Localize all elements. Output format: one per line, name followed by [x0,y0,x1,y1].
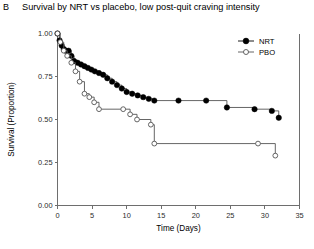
data-point-pbo [77,79,82,84]
y-tick-label: 1.00 [38,29,52,38]
y-tick-label: 0.75 [38,72,52,81]
data-point-nrt [124,89,129,94]
data-point-pbo [58,40,63,45]
data-point-pbo [273,153,278,158]
survival-chart-figure: B Survival by NRT vs placebo, low post-q… [0,0,314,249]
x-tick-label: 25 [226,211,234,220]
data-point-pbo [135,117,140,122]
data-point-pbo [256,141,261,146]
data-point-nrt [109,79,114,84]
x-axis-title: Time (Days) [156,224,201,233]
legend-label-pbo: PBO [259,48,275,57]
data-point-pbo [82,91,87,96]
data-point-nrt [135,93,140,98]
y-axis-title: Survival (Proportion) [7,82,16,157]
data-point-pbo [55,31,60,36]
data-point-nrt [276,115,281,120]
axes-group: 0.000.250.500.751.0005101520253035 [38,29,304,219]
x-tick-label: 0 [55,211,59,220]
data-point-nrt [176,98,181,103]
x-tick-label: 5 [90,211,94,220]
data-point-nrt [152,98,157,103]
data-point-nrt [269,108,274,113]
y-tick-label: 0.25 [38,158,52,167]
data-point-pbo [87,95,92,100]
data-point-pbo [61,48,66,53]
data-point-pbo [65,53,70,58]
data-point-pbo [148,122,153,127]
data-point-pbo [92,100,97,105]
x-tick-label: 15 [157,211,165,220]
legend-marker-pbo [244,50,249,55]
x-tick-label: 10 [123,211,131,220]
plot-canvas: 0.000.250.500.751.0005101520253035 NRTPB… [0,0,314,249]
y-tick-label: 0.50 [38,115,52,124]
data-point-nrt [146,96,151,101]
data-point-nrt [141,94,146,99]
series-step-line-nrt [58,34,279,118]
data-point-pbo [69,60,74,65]
data-point-nrt [119,86,124,91]
data-point-pbo [73,69,78,74]
x-tick-label: 20 [192,211,200,220]
data-point-nrt [203,98,208,103]
data-point-pbo [128,112,133,117]
data-point-pbo [97,107,102,112]
y-tick-label: 0.00 [38,201,52,210]
data-point-nrt [114,82,119,87]
data-point-nrt [252,106,257,111]
legend-marker-nrt [243,38,249,44]
x-tick-label: 35 [295,211,303,220]
data-point-nrt [224,105,229,110]
data-point-pbo [152,141,157,146]
data-point-nrt [105,76,110,81]
data-point-pbo [121,107,126,112]
axis-labels-group: Time (Days)Survival (Proportion) [7,82,201,233]
legend-label-nrt: NRT [259,37,275,46]
x-tick-label: 30 [261,211,269,220]
data-point-nrt [129,91,134,96]
legend-group: NRTPBO [238,37,275,57]
